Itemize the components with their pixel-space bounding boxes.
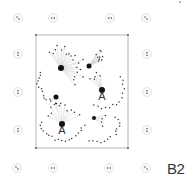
frame-corner-dot: [127, 34, 129, 36]
frame-corner-dot: [127, 147, 129, 149]
node-dot: [66, 110, 68, 112]
node-dot: [105, 115, 107, 117]
node-dot: [54, 104, 56, 106]
node-dot: [40, 128, 42, 130]
node-dot: [43, 98, 45, 100]
node-dot: [99, 75, 101, 77]
frame-corner-dot: [35, 147, 37, 149]
node-dot: [99, 56, 101, 58]
node-dot: [48, 135, 50, 137]
hub-label: A: [58, 124, 66, 136]
node-dot: [107, 139, 109, 141]
node-dot: [49, 51, 51, 53]
marker-dot: [146, 90, 147, 91]
node-dot: [122, 93, 124, 95]
node-dot: [74, 76, 76, 78]
node-dot: [43, 95, 45, 97]
node-dot: [68, 139, 70, 141]
node-dot: [61, 140, 63, 142]
node-dot: [94, 76, 96, 78]
diagram-label: B2: [167, 160, 184, 177]
hub-label: A: [98, 90, 106, 102]
node-dot: [74, 55, 76, 57]
marker-dot: [144, 16, 145, 17]
node-dot: [109, 107, 111, 109]
node-dot: [50, 100, 52, 102]
marker-ring: [14, 50, 23, 59]
node-dot: [84, 125, 86, 127]
frame-layer: [35, 34, 129, 149]
node-dot: [72, 59, 74, 61]
marker-dot: [17, 52, 18, 53]
marker-ring: [142, 14, 151, 23]
outer-marker: [105, 164, 114, 173]
node-dot: [97, 105, 99, 107]
node-dot: [94, 78, 96, 80]
node-dot: [100, 51, 102, 53]
node-dot: [40, 74, 42, 76]
node-dot: [119, 125, 121, 127]
node-dot: [70, 55, 72, 57]
hub-node: [92, 116, 96, 120]
node-dot: [76, 72, 78, 74]
node-dot: [101, 121, 103, 123]
node-dot: [114, 116, 116, 118]
node-dot: [115, 134, 117, 136]
node-dot: [102, 126, 104, 128]
node-dot: [38, 87, 40, 89]
node-dot: [43, 130, 45, 132]
links-layer: [48, 46, 105, 127]
marker-dot: [54, 167, 55, 168]
node-dot: [88, 140, 90, 142]
node-dot: [105, 107, 107, 109]
marker-dot: [17, 55, 18, 56]
node-dot: [36, 83, 38, 85]
node-dot: [109, 136, 111, 138]
node-dot: [41, 88, 43, 90]
node-dot: [120, 76, 122, 78]
node-dot: [82, 76, 84, 78]
marker-dot: [17, 168, 18, 169]
outer-marker: [142, 14, 151, 23]
node-dot: [65, 141, 67, 143]
node-dot: [74, 84, 76, 86]
marker-ring: [49, 164, 58, 173]
marker-dot: [107, 167, 108, 168]
node-dot: [82, 59, 84, 61]
outer-marker: [14, 88, 23, 97]
node-dot: [71, 109, 73, 111]
marker-dot: [146, 128, 147, 129]
node-dot: [112, 104, 114, 106]
outer-marker: [143, 50, 152, 59]
node-dot: [95, 54, 97, 56]
marker-ring: [106, 14, 115, 23]
marker-ring: [14, 88, 23, 97]
frame-corner-dot: [35, 34, 37, 36]
node-dot: [124, 88, 126, 90]
link-line: [51, 107, 62, 124]
outer-marker: [49, 164, 58, 173]
node-dot: [41, 122, 43, 124]
node-dot: [97, 57, 99, 59]
marker-dot: [17, 90, 18, 91]
node-dot: [51, 135, 53, 137]
node-dot: [47, 115, 49, 117]
node-dot: [75, 135, 77, 137]
node-dot: [92, 140, 94, 142]
marker-dot: [15, 166, 16, 167]
node-dot: [122, 84, 124, 86]
marker-dot: [17, 128, 18, 129]
node-dot: [46, 133, 48, 135]
node-dot: [49, 99, 51, 101]
outer-marker: [143, 126, 152, 135]
node-dot: [80, 69, 82, 71]
node-dot: [80, 127, 82, 129]
node-dot: [104, 140, 106, 142]
marker-dot: [51, 167, 52, 168]
node-dot: [89, 78, 91, 80]
marker-dot: [16, 16, 17, 17]
node-dot: [100, 142, 102, 144]
corner-dot: [179, 1, 181, 3]
node-dot: [38, 77, 40, 79]
node-dot: [122, 79, 124, 81]
